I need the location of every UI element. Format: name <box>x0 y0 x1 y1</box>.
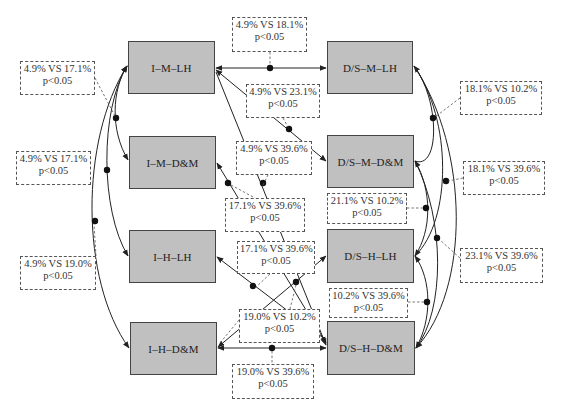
node-ds-h-dm: D/S–H–D&M <box>327 321 415 375</box>
comparison-text: 18.1% VS 10.2% <box>463 83 539 95</box>
annotation-6: 4.9% VS 39.6%p<0.05 <box>236 141 312 175</box>
annotation-8: 17.1% VS 39.6%p<0.05 <box>225 198 305 232</box>
annotation-9: 21.1% VS 10.2%p<0.05 <box>327 193 407 224</box>
annotation-12: 4.9% VS 19.0%p<0.05 <box>20 256 96 290</box>
p-value: p<0.05 <box>249 98 317 110</box>
p-value: p<0.05 <box>242 323 317 335</box>
p-value: p<0.05 <box>235 378 311 390</box>
annotation-4: 18.1% VS 10.2%p<0.05 <box>460 81 542 115</box>
node-ds-m-lh: D/S–M–LH <box>327 41 413 94</box>
annotation-15: 19.0% VS 39.6%p<0.05 <box>232 364 314 399</box>
node-label: I–M–LH <box>151 62 191 74</box>
p-value: p<0.05 <box>228 212 302 224</box>
comparison-text: 17.1% VS 39.6% <box>228 200 302 212</box>
p-value: p<0.05 <box>332 302 405 314</box>
comparison-text: 4.9% VS 17.1% <box>23 63 92 75</box>
comparison-text: 4.9% VS 17.1% <box>19 153 88 165</box>
p-value: p<0.05 <box>330 207 404 219</box>
p-value: p<0.05 <box>23 270 93 282</box>
annotation-2: 4.9% VS 17.1%p<0.05 <box>20 61 95 95</box>
node-label: D/S–H–D&M <box>339 342 403 354</box>
comparison-text: 4.9% VS 23.1% <box>249 86 317 98</box>
comparison-text: 18.1% VS 39.6% <box>466 163 542 175</box>
p-value: p<0.05 <box>240 255 312 267</box>
p-value: p<0.05 <box>463 95 539 107</box>
comparison-text: 4.9% VS 18.1% <box>235 19 304 31</box>
node-i-m-lh: I–M–LH <box>128 41 215 94</box>
comparison-diagram: I–M–LH I–M–D&M I–H–LH I–H–D&M D/S–M–LH D… <box>0 0 562 419</box>
p-value: p<0.05 <box>235 31 304 43</box>
annotation-14: 19.0% VS 10.2%p<0.05 <box>239 309 320 343</box>
p-value: p<0.05 <box>463 262 540 274</box>
node-label: D/S–M–D&M <box>338 156 404 168</box>
node-ds-m-dm: D/S–M–D&M <box>327 135 414 188</box>
node-label: D/S–M–LH <box>343 62 397 74</box>
comparison-text: 19.0% VS 10.2% <box>242 311 317 323</box>
node-label: I–H–LH <box>153 251 191 263</box>
annotation-10: 17.1% VS 39.6%p<0.05 <box>237 241 315 274</box>
node-i-m-dm: I–M–D&M <box>129 136 216 189</box>
annotation-1: 4.9% VS 18.1%p<0.05 <box>232 17 307 52</box>
node-i-h-lh: I–H–LH <box>129 230 216 283</box>
node-label: D/S–H–LH <box>344 250 396 262</box>
comparison-text: 4.9% VS 19.0% <box>23 258 93 270</box>
comparison-text: 21.1% VS 10.2% <box>330 195 404 207</box>
node-label: I–H–D&M <box>148 343 198 355</box>
annotation-7: 18.1% VS 39.6%p<0.05 <box>463 161 545 195</box>
p-value: p<0.05 <box>239 155 309 167</box>
p-value: p<0.05 <box>19 165 88 177</box>
node-label: I–M–D&M <box>146 157 198 169</box>
comparison-text: 23.1% VS 39.6% <box>463 250 540 262</box>
annotation-5: 4.9% VS 17.1%p<0.05 <box>16 151 91 185</box>
comparison-text: 17.1% VS 39.6% <box>240 243 312 255</box>
annotation-11: 23.1% VS 39.6%p<0.05 <box>460 248 543 283</box>
comparison-text: 4.9% VS 39.6% <box>239 143 309 155</box>
comparison-text: 19.0% VS 39.6% <box>235 366 311 378</box>
node-i-h-dm: I–H–D&M <box>130 322 217 375</box>
node-ds-h-lh: D/S–H–LH <box>327 229 414 283</box>
annotation-13: 10.2% VS 39.6%p<0.05 <box>329 288 408 318</box>
annotation-3: 4.9% VS 23.1%p<0.05 <box>246 84 320 118</box>
p-value: p<0.05 <box>23 75 92 87</box>
p-value: p<0.05 <box>466 175 542 187</box>
comparison-text: 10.2% VS 39.6% <box>332 290 405 302</box>
